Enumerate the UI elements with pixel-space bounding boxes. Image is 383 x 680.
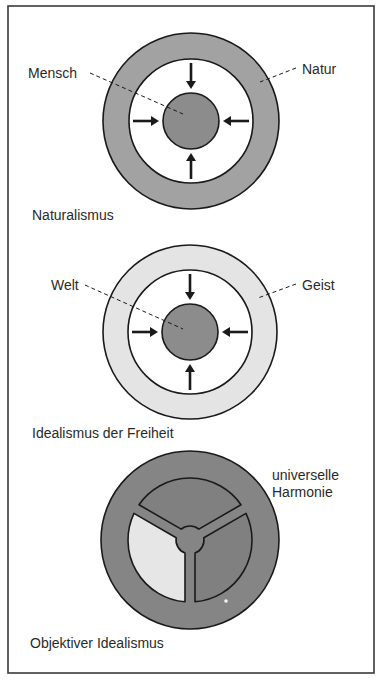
- idealismus-der-freiheit-diagram: Welt Geist Idealismus der Freiheit: [32, 245, 335, 441]
- label-welt: Welt: [51, 277, 79, 293]
- speck-dot: [224, 599, 228, 603]
- label-universelle: universelle: [272, 467, 339, 483]
- diagram-canvas: Mensch Natur Naturalismus Welt Geist Ide…: [0, 0, 383, 680]
- label-harmonie: Harmonie: [272, 484, 333, 500]
- caption-naturalismus: Naturalismus: [32, 207, 114, 223]
- welt-core: [162, 304, 218, 360]
- caption-objektiver-idealismus: Objektiver Idealismus: [30, 635, 164, 651]
- naturalismus-diagram: Mensch Natur Naturalismus: [28, 33, 337, 223]
- mensch-core: [163, 93, 219, 149]
- label-mensch: Mensch: [28, 65, 77, 81]
- label-natur: Natur: [302, 61, 337, 77]
- objektiver-idealismus-diagram: universelle Harmonie Objektiver Idealism…: [30, 451, 339, 651]
- caption-idealismus-der-freiheit: Idealismus der Freiheit: [32, 425, 174, 441]
- label-geist: Geist: [302, 277, 335, 293]
